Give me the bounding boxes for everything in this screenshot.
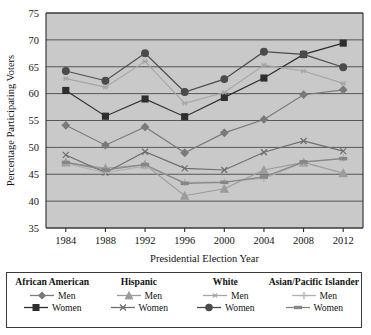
data-point-1988 [102,169,109,171]
y-tick-label-35: 35 [29,223,40,234]
chart-legend: African AmericanMenWomenHispanicMenWomen… [6,272,362,328]
data-point-2004 [260,176,267,178]
legend-item-label: Women [225,302,255,313]
data-point-2000 [221,181,228,183]
legend-item-men[interactable]: Men [291,290,338,301]
legend-item-label: Men [320,290,338,301]
y-tick-label-60: 60 [29,88,40,99]
y-tick-label-55: 55 [29,115,40,126]
legend-item-label: Men [231,290,249,301]
y-tick-label-40: 40 [29,196,40,207]
data-point-2004 [261,75,267,81]
x-tick-label-1988: 1988 [95,235,116,246]
legend-item-men[interactable]: Men [116,290,163,301]
data-point-2012 [340,157,347,159]
legend-swatch-triangle-icon [116,290,142,301]
data-point-2008 [300,161,307,163]
x-tick-label-2004: 2004 [253,235,275,246]
legend-group-title: African American [15,276,89,287]
chart-root: 3540455055606570751984198819921996200020… [0,0,371,335]
legend-item-label: Men [58,290,76,301]
x-axis-title: Presidential Election Year [150,253,259,264]
legend-group-title: White [213,276,238,287]
legend-item-men[interactable]: Men [29,290,76,301]
legend-swatch-plus-icon [291,290,317,301]
legend-item-women[interactable]: Women [285,302,344,313]
legend-item-label: Women [52,302,82,313]
legend-group-title: Asian/Pacific Islander [269,276,359,287]
x-tick-label-1996: 1996 [174,235,195,246]
x-tick-label-2008: 2008 [293,235,314,246]
y-tick-label-70: 70 [29,35,40,46]
y-tick-label-50: 50 [29,142,40,153]
legend-swatch-asterisk-icon [202,290,228,301]
data-point-2012 [340,64,347,71]
data-point-1988 [102,77,109,84]
legend-item-label: Women [314,302,344,313]
y-tick-label-75: 75 [29,8,40,19]
data-point-1992 [142,50,149,57]
legend-swatch-diamond-icon [29,290,55,301]
legend-group-african-american: African AmericanMenWomen [9,276,96,325]
legend-group-white: WhiteMenWomen [182,276,269,325]
legend-item-men[interactable]: Men [202,290,249,301]
legend-group-asian-pacific-islander: Asian/Pacific IslanderMenWomen [269,276,359,325]
data-point-2000 [221,76,228,83]
line-chart-svg: 3540455055606570751984198819921996200020… [0,0,371,270]
data-point-1984 [62,68,69,75]
legend-swatch-x-icon [110,302,136,313]
legend-swatch-square-icon [23,302,49,313]
data-point-1984 [62,161,69,163]
data-point-1996 [181,89,188,96]
data-point-1996 [181,182,188,184]
y-tick-label-65: 65 [29,62,40,73]
x-tick-label-1992: 1992 [135,235,156,246]
data-point-2004 [261,48,268,55]
x-tick-label-2012: 2012 [333,235,354,246]
y-axis-title: Percentage Participating Voters [5,55,16,186]
legend-group-title: Hispanic [121,276,157,287]
legend-item-women[interactable]: Women [110,302,169,313]
legend-item-label: Men [145,290,163,301]
data-point-1996 [182,114,188,120]
legend-group-hispanic: HispanicMenWomen [96,276,183,325]
legend-swatch-circle-icon [196,302,222,313]
legend-swatch-dash-icon [285,302,311,313]
x-tick-label-2000: 2000 [214,235,235,246]
data-point-2012 [340,40,346,46]
data-point-1984 [63,87,69,93]
data-point-1992 [142,96,148,102]
y-tick-label-45: 45 [29,169,40,180]
data-point-2008 [300,51,307,58]
data-point-1992 [142,163,149,165]
data-point-1988 [102,113,108,119]
legend-item-label: Women [139,302,169,313]
plot-area: 3540455055606570751984198819921996200020… [0,0,371,270]
legend-item-women[interactable]: Women [23,302,82,313]
legend-item-women[interactable]: Women [196,302,255,313]
data-point-2000 [221,94,227,100]
x-tick-label-1984: 1984 [55,235,77,246]
